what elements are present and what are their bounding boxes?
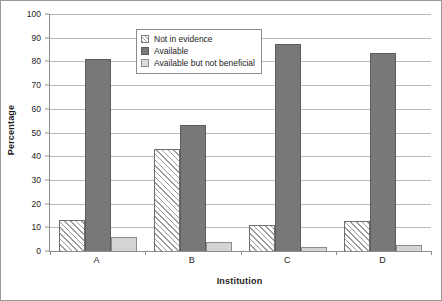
bar[interactable] <box>59 220 85 251</box>
bar[interactable] <box>370 53 396 251</box>
bar[interactable] <box>344 221 370 251</box>
y-axis-tick-label: 30 <box>32 175 41 185</box>
chart-legend: Not in evidenceAvailableAvailable but no… <box>136 29 262 74</box>
x-axis-title: Institution <box>49 276 430 286</box>
bar[interactable] <box>275 44 301 251</box>
y-axis-tick-label: 80 <box>32 56 41 66</box>
y-axis-tick-label: 90 <box>32 33 41 43</box>
y-axis-tick-label: 100 <box>27 9 41 19</box>
bar[interactable] <box>85 59 111 251</box>
legend-swatch-icon <box>141 35 149 43</box>
bar[interactable] <box>180 125 206 251</box>
y-axis-tick-label: 20 <box>32 199 41 209</box>
y-axis-tick-labels: 0102030405060708090100 <box>19 14 45 251</box>
bar[interactable] <box>206 242 232 251</box>
bar[interactable] <box>154 149 180 251</box>
bar-group-bars <box>50 14 145 251</box>
bar[interactable] <box>249 225 275 251</box>
x-axis-tick-label: D <box>335 255 430 265</box>
legend-item-label: Not in evidence <box>154 34 213 44</box>
bar-group-bars <box>336 14 431 251</box>
y-axis-title: Percentage <box>3 1 19 259</box>
legend-item-label: Available <box>154 46 188 56</box>
x-axis-tick-mark <box>431 251 432 255</box>
bar[interactable] <box>111 237 137 251</box>
y-axis-tick-label: 0 <box>36 246 41 256</box>
y-axis-tick-label: 50 <box>32 128 41 138</box>
y-axis-tick-label: 40 <box>32 151 41 161</box>
y-axis-tick-label: 60 <box>32 104 41 114</box>
x-axis-tick-label: C <box>240 255 335 265</box>
legend-item[interactable]: Available but not beneficial <box>141 57 255 69</box>
bar-group <box>336 14 431 251</box>
x-axis-tick-labels: ABCD <box>49 255 430 265</box>
legend-item-label: Available but not beneficial <box>154 58 255 68</box>
bar-group <box>50 14 145 251</box>
y-axis-title-text: Percentage <box>6 105 16 156</box>
legend-item[interactable]: Not in evidence <box>141 33 255 45</box>
legend-item[interactable]: Available <box>141 45 255 57</box>
legend-swatch-icon <box>141 59 149 67</box>
x-axis-tick-label: B <box>144 255 239 265</box>
bar[interactable] <box>301 247 327 251</box>
bar-chart-figure: Percentage 0102030405060708090100 ABCD I… <box>0 0 442 301</box>
x-axis-tick-label: A <box>49 255 144 265</box>
x-axis-title-text: Institution <box>217 276 263 286</box>
y-axis-tick-label: 10 <box>32 222 41 232</box>
bar[interactable] <box>396 245 422 251</box>
y-axis-tick-label: 70 <box>32 80 41 90</box>
legend-swatch-icon <box>141 47 149 55</box>
